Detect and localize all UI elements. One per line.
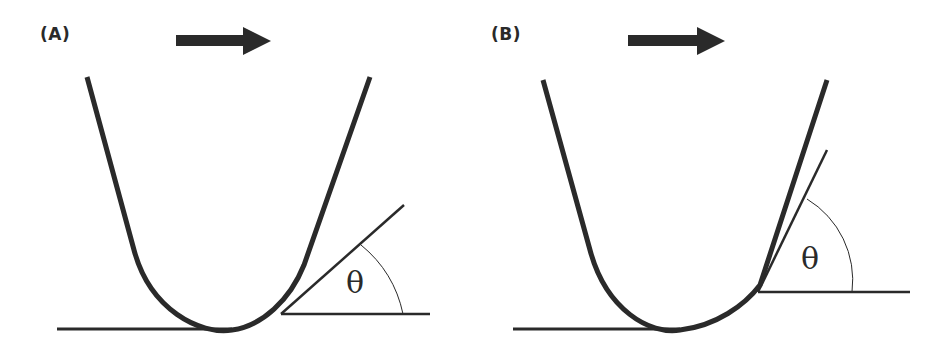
motion-arrow-icon [628, 27, 725, 55]
diagram-a [0, 0, 475, 341]
theta-symbol-b: θ [801, 244, 819, 274]
motion-arrow-icon [176, 27, 271, 55]
theta-symbol-a: θ [346, 268, 364, 298]
u-profile [87, 77, 370, 331]
panel-a: (A) θ [0, 0, 475, 341]
panel-b: (B) θ [475, 0, 951, 341]
tangent-line [281, 205, 404, 314]
diagram-b [475, 0, 951, 341]
angle-arc [361, 245, 403, 314]
